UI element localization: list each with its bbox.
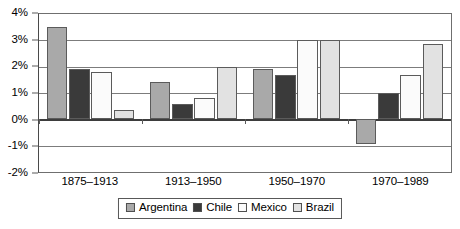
bar-slot: [149, 14, 171, 172]
y-tick-label: 4%: [12, 7, 28, 19]
x-tick-mark: [142, 119, 143, 124]
bar-group-bars: [39, 14, 142, 172]
bar-chile[interactable]: [378, 93, 398, 119]
bar-argentina[interactable]: [150, 82, 170, 119]
legend-swatch-icon: [126, 203, 135, 212]
y-tick-label: 0%: [12, 114, 28, 126]
y-tick-label: 3%: [12, 34, 28, 46]
bar-slot: [422, 14, 444, 172]
bar-mexico[interactable]: [91, 72, 111, 119]
bar-slot: [68, 14, 90, 172]
bar-mexico[interactable]: [194, 98, 214, 119]
bar-chile[interactable]: [69, 69, 89, 119]
bar-group: [39, 14, 142, 172]
bar-argentina[interactable]: [253, 69, 273, 119]
bar-group-bars: [348, 14, 451, 172]
y-tick-label: -2%: [8, 167, 28, 179]
legend: ArgentinaChileMexicoBrazil: [118, 198, 342, 219]
y-axis: 4%3%2%1%0%-1%-2%: [0, 13, 34, 173]
legend-label: Mexico: [251, 202, 287, 214]
y-tick-label: -1%: [8, 141, 28, 153]
legend-item-mexico[interactable]: Mexico: [238, 202, 287, 214]
bar-groups: [39, 14, 451, 172]
bar-slot: [377, 14, 399, 172]
legend-swatch-icon: [193, 203, 202, 212]
bar-mexico[interactable]: [400, 75, 420, 120]
bar-group-bars: [142, 14, 245, 172]
bar-slot: [113, 14, 135, 172]
bar-slot: [355, 14, 377, 172]
x-tick-mark: [245, 119, 246, 124]
bar-brazil[interactable]: [217, 67, 237, 120]
bar-group: [142, 14, 245, 172]
x-axis: 1875–19131913–19501950–19701970–1989: [38, 176, 452, 188]
legend-label: Chile: [206, 202, 232, 214]
bar-slot: [297, 14, 319, 172]
legend-item-brazil[interactable]: Brazil: [293, 202, 334, 214]
bar-slot: [91, 14, 113, 172]
bar-mexico[interactable]: [297, 40, 317, 119]
bar-argentina[interactable]: [47, 27, 67, 119]
bar-brazil[interactable]: [423, 44, 443, 119]
bar-brazil[interactable]: [114, 110, 134, 119]
bar-slot: [171, 14, 193, 172]
bar-chile[interactable]: [172, 104, 192, 120]
x-tick-label: 1913–1950: [142, 176, 246, 188]
y-tick-label: 1%: [12, 87, 28, 99]
bar-slot: [319, 14, 341, 172]
bar-group-bars: [245, 14, 348, 172]
bar-group: [245, 14, 348, 172]
legend-item-chile[interactable]: Chile: [193, 202, 232, 214]
y-tick-label: 2%: [12, 61, 28, 73]
plot-area: [38, 13, 452, 173]
bar-group: [348, 14, 451, 172]
bar-brazil[interactable]: [320, 40, 340, 119]
x-tick-label: 1950–1970: [245, 176, 349, 188]
legend-item-argentina[interactable]: Argentina: [126, 202, 187, 214]
bar-slot: [274, 14, 296, 172]
legend-swatch-icon: [293, 203, 302, 212]
legend-swatch-icon: [238, 203, 247, 212]
bar-slot: [252, 14, 274, 172]
bar-argentina[interactable]: [356, 119, 376, 144]
x-tick-label: 1970–1989: [349, 176, 453, 188]
bar-slot: [400, 14, 422, 172]
legend-label: Argentina: [139, 202, 187, 214]
x-tick-mark: [348, 119, 349, 124]
bar-chile[interactable]: [275, 75, 295, 120]
x-tick-mark: [39, 119, 40, 124]
bar-chart: 4%3%2%1%0%-1%-2% 1875–19131913–19501950–…: [0, 0, 460, 229]
x-tick-label: 1875–1913: [38, 176, 142, 188]
bar-slot: [46, 14, 68, 172]
legend-label: Brazil: [306, 202, 334, 214]
bar-slot: [194, 14, 216, 172]
bar-slot: [216, 14, 238, 172]
